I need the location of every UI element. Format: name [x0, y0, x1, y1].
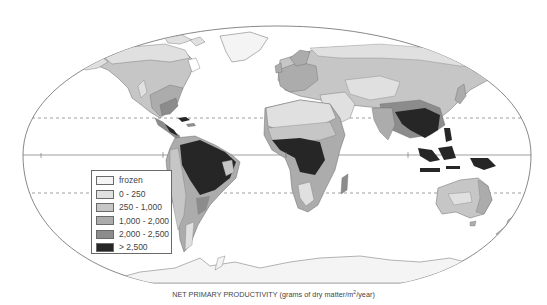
legend-swatch — [96, 243, 114, 252]
legend-swatch — [96, 203, 114, 212]
legend: frozen 0 - 250 250 - 1,000 1,000 - 2,000… — [91, 170, 172, 254]
legend-swatch — [96, 190, 114, 199]
legend-item-over-2500: > 2,500 — [96, 241, 171, 254]
legend-label: 0 - 250 — [119, 190, 145, 199]
legend-item-2000-2500: 2,000 - 2,500 — [96, 228, 171, 241]
legend-item-0-250: 0 - 250 — [96, 187, 171, 200]
legend-item-frozen: frozen — [96, 174, 171, 187]
caption-units-suffix: /year) — [356, 290, 375, 299]
legend-item-1000-2000: 1,000 - 2,000 — [96, 214, 171, 227]
legend-swatch — [96, 176, 114, 185]
caption-title: NET PRIMARY PRODUCTIVITY — [172, 290, 277, 299]
map-caption: NET PRIMARY PRODUCTIVITY (grams of dry m… — [0, 289, 547, 299]
caption-units-prefix: (grams of dry matter/m — [280, 290, 354, 299]
legend-label: 2,000 - 2,500 — [119, 230, 169, 239]
legend-label: > 2,500 — [119, 243, 148, 252]
legend-label: 1,000 - 2,000 — [119, 217, 169, 226]
legend-swatch — [96, 216, 114, 225]
legend-item-250-1000: 250 - 1,000 — [96, 201, 171, 214]
legend-label: frozen — [119, 176, 143, 185]
legend-label: 250 - 1,000 — [119, 203, 162, 212]
legend-swatch — [96, 230, 114, 239]
world-map — [0, 0, 547, 305]
